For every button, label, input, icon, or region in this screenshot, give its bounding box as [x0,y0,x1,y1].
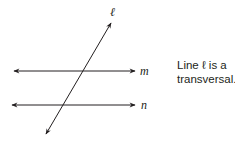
line-l-transversal [46,23,111,134]
caption-line-2: transversal. [177,72,235,86]
caption-line-1: Line ℓ is a [177,58,235,72]
label-n: n [141,98,147,112]
label-l: ℓ [110,5,115,19]
caption: Line ℓ is a transversal. [177,58,235,86]
label-m: m [140,64,149,78]
